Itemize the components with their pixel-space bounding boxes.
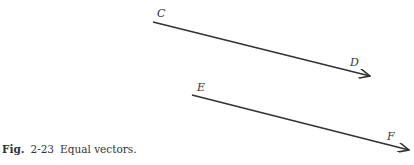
figure-caption: Fig.2-23Equal vectors. <box>2 143 136 155</box>
caption-text: Equal vectors. <box>60 143 136 155</box>
vector-cd: C D <box>153 7 370 76</box>
vector-diagram: C D E F <box>0 0 414 165</box>
label-e: E <box>196 81 205 94</box>
vector-ef: E F <box>192 81 409 150</box>
label-d: D <box>349 56 359 69</box>
label-c: C <box>157 7 166 20</box>
label-f: F <box>386 130 395 143</box>
vector-cd-line <box>153 22 370 76</box>
vector-ef-line <box>192 95 409 150</box>
equal-vectors-figure: C D E F Fig.2-23Equal vectors. <box>0 0 414 165</box>
caption-prefix: Fig. <box>2 143 24 155</box>
caption-number: 2-23 <box>30 143 54 155</box>
